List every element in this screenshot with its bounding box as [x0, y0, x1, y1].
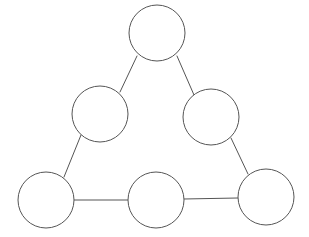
graph-edge-right-upper-bottom-right	[231, 138, 248, 174]
node-circle-left-upper[interactable]	[72, 86, 128, 142]
node-circle-bottom-right[interactable]	[238, 169, 294, 225]
graph-node-bottom-right[interactable]	[238, 169, 294, 225]
graph-node-apex[interactable]	[129, 5, 185, 61]
graph-edge-bottom-mid-bottom-right	[184, 198, 238, 199]
node-circle-apex[interactable]	[129, 5, 185, 61]
node-layer	[18, 5, 294, 228]
node-circle-right-upper[interactable]	[183, 89, 239, 145]
diagram-canvas	[0, 0, 309, 237]
graph-node-left-upper[interactable]	[72, 86, 128, 142]
graph-edge-left-upper-bottom-left	[64, 135, 81, 177]
graph-node-bottom-mid[interactable]	[128, 172, 184, 228]
graph-edge-apex-right-upper	[177, 56, 194, 95]
graph-svg	[0, 0, 309, 237]
graph-edge-apex-left-upper	[120, 56, 137, 92]
node-circle-bottom-left[interactable]	[18, 172, 74, 228]
node-circle-bottom-mid[interactable]	[128, 172, 184, 228]
graph-node-bottom-left[interactable]	[18, 172, 74, 228]
graph-node-right-upper[interactable]	[183, 89, 239, 145]
